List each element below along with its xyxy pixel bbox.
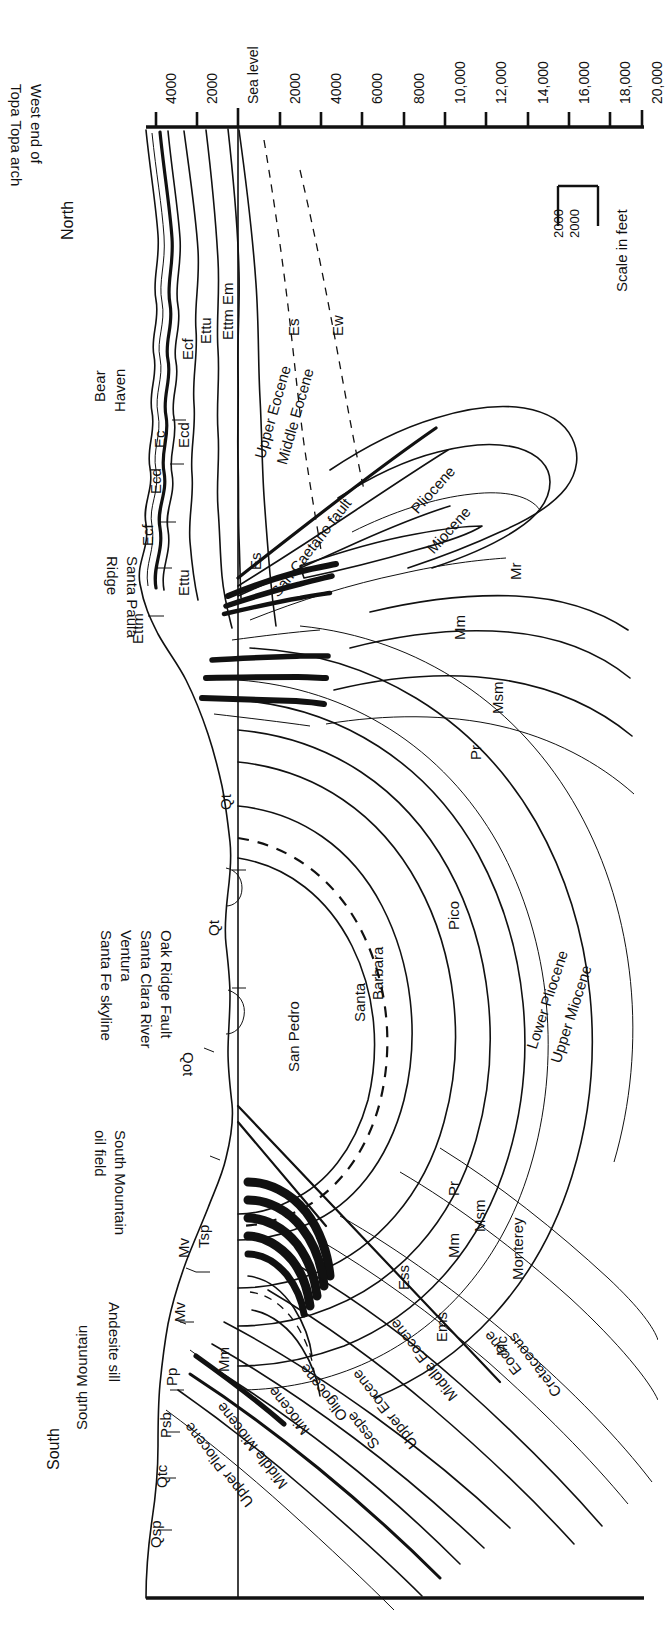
formation-label-san-pedro: San Pedro xyxy=(286,1001,302,1072)
unit-code-ecf-1: Ecf xyxy=(180,338,196,360)
place-label-santa-paula-line2: Ridge xyxy=(104,556,120,595)
unit-code-ecf-2: Ecf xyxy=(140,524,156,546)
unit-code-msm-1: Msm xyxy=(490,682,506,715)
axis-tick-label: 14,000 xyxy=(536,61,551,104)
unit-code-mm-1: Mm xyxy=(452,615,468,640)
unit-code-ecd-2: Ecd xyxy=(148,468,164,494)
unit-code-ettm-em: Ettm Em xyxy=(220,282,236,340)
unit-code-es-2: Es xyxy=(248,552,264,570)
direction-label-south: South xyxy=(46,1428,63,1470)
axis-tick-label: 20,000 xyxy=(650,61,665,104)
unit-code-mm-2: Mm xyxy=(216,1347,232,1372)
unit-code-qot: Qot xyxy=(180,1052,196,1076)
formation-label-monterey: Monterey xyxy=(510,1217,526,1280)
direction-label-north: North xyxy=(60,201,77,240)
formation-label-santa: Santa xyxy=(352,983,368,1022)
place-label-bear-haven-line1: Bear xyxy=(92,370,108,402)
unit-code-pr-1: Pr xyxy=(468,745,484,760)
axis-sea-level-label: Sea level xyxy=(246,46,261,104)
axis-tick-label: 8000 xyxy=(412,73,427,104)
unit-code-qt-2: Qt xyxy=(206,920,222,936)
place-label-topa-topa-line2: Topa Topa arch xyxy=(8,84,24,186)
axis-tick-label: 18,000 xyxy=(618,61,633,104)
unit-code-mc: Mc xyxy=(494,1336,510,1356)
axis-tick-label: 2000 xyxy=(205,73,220,104)
unit-code-ecd-1: Ecd xyxy=(176,422,192,448)
unit-code-ettu-1: Ettu xyxy=(198,317,214,344)
axis-tick-label: 4000 xyxy=(329,73,344,104)
unit-code-qt-1: Qt xyxy=(218,794,234,810)
place-label-oil-field-line1: South Mountain xyxy=(112,1130,128,1235)
unit-code-mr: Mr xyxy=(508,563,524,581)
scale-vertical-label: 2000 xyxy=(568,209,582,238)
unit-code-ew: Ew xyxy=(330,315,346,336)
unit-code-pp: Pp xyxy=(164,1368,180,1386)
unit-code-mv-2: Mv xyxy=(172,1302,188,1322)
south-mountain-oil-field-beds xyxy=(248,1182,330,1396)
unit-code-es-1: Es xyxy=(286,318,302,336)
scale-caption: Scale in feet xyxy=(614,209,630,292)
scale-horizontal-label: 2000 xyxy=(552,209,566,238)
unit-code-tsp: Tsp xyxy=(196,1225,212,1248)
unit-code-ettm: Ettm xyxy=(130,613,146,644)
place-label-topa-topa-line1: West end of xyxy=(28,84,44,164)
place-label-ventura: Ventura xyxy=(118,930,134,982)
place-label-santa-fe-skyline: Santa Fe skyline xyxy=(98,930,114,1041)
place-label-oak-ridge-fault: Oak Ridge Fault xyxy=(158,930,174,1038)
axis-tick-label: 12,000 xyxy=(494,61,509,104)
unit-code-psb: Psb xyxy=(158,1412,174,1438)
place-label-south-mountain: South Mountain xyxy=(74,1325,90,1430)
place-label-andesite-sill: Andesite sill xyxy=(106,1302,122,1382)
place-label-oil-field-line2: oil field xyxy=(92,1130,108,1177)
unit-code-ettu-2: Ettu xyxy=(176,569,192,596)
unit-code-mv-1: Mv xyxy=(176,1238,192,1258)
axis-tick-label: 2000 xyxy=(288,73,303,104)
place-label-bear-haven-line2: Haven xyxy=(112,369,128,412)
unit-code-msm-2: Msm xyxy=(472,1200,488,1233)
unit-code-ess: Ess xyxy=(396,1265,412,1290)
pliocene-miocene-folds xyxy=(326,406,634,794)
axis-tick-label: 6000 xyxy=(370,73,385,104)
unit-code-qsp: Qsp xyxy=(148,1520,164,1548)
unit-code-mm-3: Mm xyxy=(446,1233,462,1258)
unit-code-ec: Ec xyxy=(152,430,168,448)
place-label-santa-clara-river: Santa Clara River xyxy=(138,930,154,1048)
unit-code-qtc: Qtc xyxy=(154,1465,170,1488)
axis-tick-label: 16,000 xyxy=(577,61,592,104)
unit-code-ems: Ems xyxy=(434,1312,450,1342)
unit-code-pr-2: Pr xyxy=(446,1181,462,1196)
axis-tick-label: 4000 xyxy=(164,73,179,104)
axis-tick-label: 10,000 xyxy=(453,61,468,104)
south-flank-beds xyxy=(166,1148,658,1610)
formation-label-pico: Pico xyxy=(446,901,462,930)
depth-axis xyxy=(146,108,644,127)
formation-label-barbara: Barbara xyxy=(370,947,386,1000)
